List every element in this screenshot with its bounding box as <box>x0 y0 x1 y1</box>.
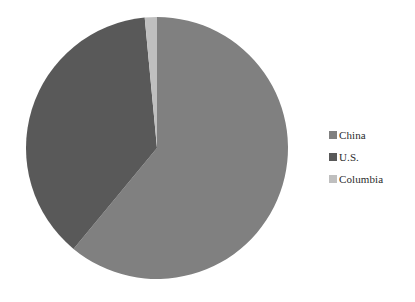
legend-item-china[interactable]: China <box>329 124 413 146</box>
legend-item-columbia[interactable]: Columbia <box>329 168 413 190</box>
pie-chart-svg <box>26 17 288 279</box>
legend-item-us[interactable]: U.S. <box>329 146 413 168</box>
legend-swatch-china <box>329 131 337 139</box>
legend-swatch-columbia <box>329 175 337 183</box>
pie-chart-plot-area <box>26 17 288 279</box>
chart-legend: China U.S. Columbia <box>329 124 413 190</box>
legend-label-us: U.S. <box>339 152 359 163</box>
legend-label-columbia: Columbia <box>339 174 383 185</box>
pie-slice-group <box>26 17 288 279</box>
pie-chart-figure: China U.S. Columbia <box>0 0 415 302</box>
legend-label-china: China <box>339 130 366 141</box>
legend-swatch-us <box>329 153 337 161</box>
